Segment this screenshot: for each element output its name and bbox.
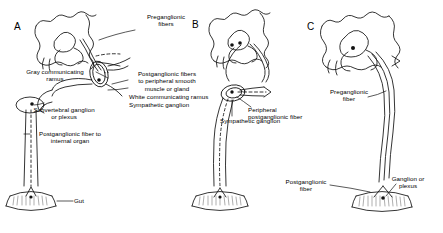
label-preganglionic-fiber-c: Preganglionic fiber <box>324 88 374 103</box>
panel-letter-a: A <box>14 21 21 32</box>
label-postganglionic-fiber-c: Postganglionic fiber <box>278 178 334 193</box>
label-subvertebral-ganglion: Subvertebral ganglion or plexus <box>18 106 110 121</box>
label-preganglionic-fibers-a: Preganglionic fibers <box>136 13 196 28</box>
label-white-communicating-ramus: White communicating ramus <box>129 93 239 100</box>
label-postganglionic-fiber-internal-organ: Postganglionic fiber to internal organ <box>22 130 118 145</box>
panel-c-spinal-cord <box>320 12 400 75</box>
label-ganglion-or-plexus: Ganglion or plexus <box>382 175 434 190</box>
label-gut: Gut <box>74 197 98 204</box>
panel-b-gut <box>192 188 248 211</box>
autonomic-pathway-figure: A B C Preganglionic fibers Gray communic… <box>0 0 443 233</box>
label-postganglionic-fibers-peripheral: Postganglionic fibers to peripheral smoo… <box>124 70 210 92</box>
label-sympathetic-ganglion-b: Sympathetic ganglion <box>220 117 300 124</box>
panel-b-spinal-cord <box>209 10 270 69</box>
panel-c-fibers <box>368 52 395 182</box>
label-gray-communicating-ramus: Gray communicating ramus <box>13 68 97 83</box>
panel-a-gut-fiber <box>6 110 73 211</box>
panel-a-spinal-cord <box>35 12 96 71</box>
panel-letter-c: C <box>307 21 314 32</box>
label-sympathetic-ganglion-a: Sympathetic ganglion <box>129 101 225 108</box>
